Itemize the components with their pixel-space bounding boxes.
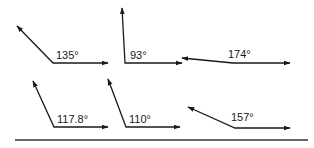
angle-label: 174° bbox=[228, 48, 251, 60]
angles-group: 135°93°174°117.8°110°157° bbox=[17, 8, 290, 128]
angle-figure: 157° bbox=[188, 107, 290, 128]
angle-label: 117.8° bbox=[57, 113, 88, 125]
angle-figure: 174° bbox=[182, 48, 290, 63]
angle-label: 157° bbox=[231, 111, 254, 123]
angle-figure: 93° bbox=[122, 8, 182, 63]
angle-figure: 117.8° bbox=[33, 81, 108, 127]
angle-figure: 135° bbox=[17, 26, 108, 63]
angle-label: 135° bbox=[56, 49, 79, 61]
angle-label: 110° bbox=[129, 113, 151, 125]
angle-label: 93° bbox=[130, 49, 147, 61]
angle-figure: 110° bbox=[108, 79, 180, 127]
angles-diagram: 135°93°174°117.8°110°157° bbox=[0, 0, 314, 148]
